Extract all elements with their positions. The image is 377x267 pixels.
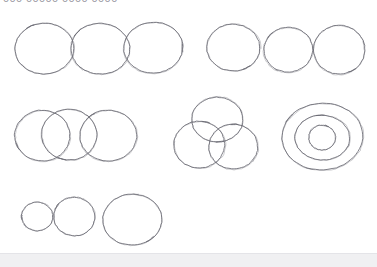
circle-stroke (313, 26, 364, 75)
drawing-canvas[interactable]: three touching circles, equal size, hori… (0, 0, 377, 253)
group-top-right-separated-row[interactable]: three separated circles, slightly varyin… (207, 24, 365, 75)
group-middle-left-overlapping-row[interactable]: three overlapping circles, horizontal ro… (14, 109, 137, 162)
status-bar (0, 253, 377, 267)
circle-stroke (21, 202, 53, 231)
clipped-header-text: 000 00000 0000 0000 (0, 0, 377, 7)
clipped-header-label: 000 00000 0000 0000 (3, 0, 118, 5)
group-concentric-bullseye[interactable]: three concentric circles forming a bulls… (282, 103, 364, 170)
group-middle-venn-cluster[interactable]: three overlapping circles in triangular … (174, 96, 259, 170)
group-top-left-touching-row[interactable]: three touching circles, equal size, hori… (15, 22, 183, 74)
drawing-app-window: 000 00000 0000 0000 three touching circl… (0, 0, 377, 267)
sketch-circles-svg: three touching circles, equal size, hori… (0, 0, 377, 253)
group-bottom-left-increasing-size[interactable]: three circles increasing in size left to… (21, 194, 162, 246)
circle-stroke (15, 23, 75, 74)
circle-stroke (208, 124, 258, 170)
circle-stroke (207, 24, 261, 72)
